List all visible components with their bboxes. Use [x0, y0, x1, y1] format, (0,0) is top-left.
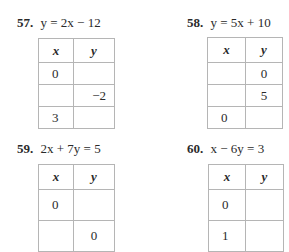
header-y: y — [246, 165, 284, 190]
problem-59-label: 59. 2x + 7y = 5 — [17, 142, 101, 156]
problem-equation: y = 5x + 10 — [211, 15, 271, 30]
table-header-row: x y — [208, 38, 283, 63]
cell-x: 0 — [39, 190, 74, 221]
table-row: 0 — [39, 63, 115, 85]
cell-y: 5 — [246, 85, 283, 107]
cell-x: 0 — [39, 63, 74, 85]
table-row: 1 — [209, 221, 284, 252]
header-y: y — [74, 39, 115, 63]
cell-x — [208, 63, 246, 85]
table-row: 0 — [209, 190, 284, 221]
problem-number: 60. — [187, 141, 203, 156]
cell-y — [246, 221, 284, 252]
cell-x: 0 — [208, 107, 246, 129]
cell-y: 0 — [74, 221, 115, 252]
table-row: −2 — [39, 85, 115, 107]
cell-x — [39, 221, 74, 252]
header-x: x — [39, 165, 74, 190]
header-x: x — [208, 38, 246, 63]
header-x: x — [209, 165, 246, 190]
problem-58-table: x y 0 5 0 — [207, 37, 283, 129]
table-row: 0 — [39, 221, 115, 252]
problem-58-label: 58. y = 5x + 10 — [187, 16, 271, 30]
table-row: 3 — [39, 107, 115, 129]
table-header-row: x y — [209, 165, 284, 190]
header-y: y — [246, 38, 283, 63]
problem-equation: x − 6y = 3 — [211, 141, 265, 156]
problem-57-label: 57. y = 2x − 12 — [17, 16, 101, 30]
cell-y — [74, 190, 115, 221]
table-row: 0 — [39, 190, 115, 221]
cell-x: 3 — [39, 107, 74, 129]
problem-60-table: x y 0 1 — [208, 164, 284, 252]
cell-x — [208, 85, 246, 107]
problem-59-table: x y 0 0 — [38, 164, 115, 252]
cell-y — [74, 107, 115, 129]
table-row: 5 — [208, 85, 283, 107]
problem-number: 59. — [17, 141, 33, 156]
problem-number: 57. — [17, 15, 33, 30]
table-row: 0 — [208, 107, 283, 129]
header-y: y — [74, 165, 115, 190]
table-header-row: x y — [39, 39, 115, 63]
problem-number: 58. — [187, 15, 203, 30]
cell-y: 0 — [246, 63, 283, 85]
cell-x: 1 — [209, 221, 246, 252]
cell-y — [246, 107, 283, 129]
cell-y — [246, 190, 284, 221]
table-row: 0 — [208, 63, 283, 85]
header-x: x — [39, 39, 74, 63]
problem-60-label: 60. x − 6y = 3 — [187, 142, 264, 156]
cell-y: −2 — [74, 85, 115, 107]
cell-x: 0 — [209, 190, 246, 221]
table-header-row: x y — [39, 165, 115, 190]
problem-57-table: x y 0 −2 3 — [38, 38, 115, 129]
cell-x — [39, 85, 74, 107]
problem-equation: y = 2x − 12 — [41, 15, 101, 30]
cell-y — [74, 63, 115, 85]
problem-equation: 2x + 7y = 5 — [41, 141, 101, 156]
